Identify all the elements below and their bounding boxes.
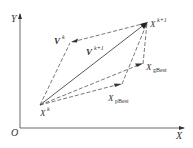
svg-text:gBest: gBest bbox=[153, 67, 167, 73]
svg-text:X: X bbox=[145, 62, 152, 72]
svg-text:k: k bbox=[47, 106, 50, 112]
svg-text:k+1: k+1 bbox=[94, 45, 104, 51]
vk-label: V k bbox=[54, 34, 65, 46]
svg-text:k: k bbox=[62, 34, 65, 40]
xk1-label: X k+1 bbox=[149, 17, 167, 29]
vk-side-line bbox=[40, 43, 70, 105]
pbest-arrowhead bbox=[114, 84, 122, 88]
svg-text:k+1: k+1 bbox=[157, 17, 167, 23]
gbest-arrowhead bbox=[135, 64, 143, 68]
vk-arrowhead bbox=[71, 39, 78, 43]
svg-text:X: X bbox=[39, 108, 46, 118]
vk1-label: V k+1 bbox=[86, 45, 104, 57]
y-axis-label: Y bbox=[11, 13, 18, 24]
vk-vector-arrow bbox=[72, 23, 146, 42]
svg-text:V: V bbox=[54, 36, 61, 46]
svg-text:pBest: pBest bbox=[115, 98, 129, 104]
xk-label: X k bbox=[39, 106, 50, 118]
svg-text:V: V bbox=[86, 47, 93, 57]
origin-label: O bbox=[11, 127, 18, 138]
gbest-label: X gBest bbox=[145, 62, 167, 73]
svg-text:X: X bbox=[107, 93, 114, 103]
pso-diagram: Y O X V k V k+1 X k+1 X gBest X pBest X … bbox=[0, 0, 193, 148]
x-axis-label: X bbox=[175, 130, 183, 141]
pbest-label: X pBest bbox=[107, 93, 129, 104]
gbest-to-next-line bbox=[143, 23, 147, 64]
svg-text:X: X bbox=[149, 19, 156, 29]
